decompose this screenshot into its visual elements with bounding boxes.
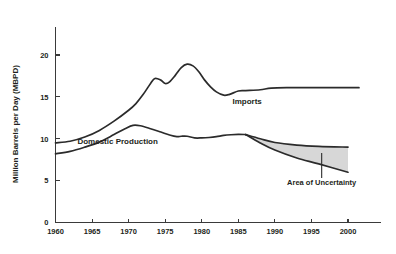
y-axis-tick-label: 15	[40, 93, 48, 102]
x-axis-tick-label: 1995	[303, 227, 320, 236]
x-axis-tick-label: 1985	[230, 227, 247, 236]
y-axis-tick-label: 5	[44, 176, 48, 185]
oil-supply-line-chart: 0510152019601965197019751980198519901995…	[0, 0, 396, 254]
area-of-uncertainty-label: Area of Uncertainty	[287, 178, 357, 187]
series-label-imports: Imports	[232, 97, 262, 106]
series-label-domestic-production: Domestic Production	[77, 137, 158, 146]
x-axis-tick-label: 1970	[120, 227, 137, 236]
x-axis-tick-label: 1965	[84, 227, 101, 236]
chart-container: 0510152019601965197019751980198519901995…	[0, 0, 396, 254]
x-axis-tick-label: 1980	[193, 227, 210, 236]
x-axis-tick-label: 2000	[340, 227, 357, 236]
y-axis-tick-label: 20	[40, 51, 48, 60]
x-axis-tick-label: 1960	[47, 227, 64, 236]
y-axis-title: Million Barrels per Day (MBPD)	[11, 65, 20, 183]
x-axis-tick-label: 1990	[267, 227, 284, 236]
x-axis-tick-label: 1975	[157, 227, 174, 236]
uncertainty-area	[246, 135, 348, 173]
series-line-imports	[56, 64, 359, 143]
y-axis-tick-label: 10	[40, 135, 48, 144]
